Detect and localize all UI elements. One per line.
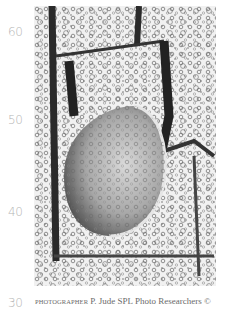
photo-credit: PHOTOGRAPHER P. Jude SPL Photo Researche…	[35, 296, 211, 306]
credit-text: P. Jude SPL Photo Researchers ©	[90, 296, 211, 306]
credit-prefix: PHOTOGRAPHER	[35, 298, 88, 305]
ruler-label-60: 60	[8, 25, 22, 39]
ruler-label-50: 50	[8, 113, 22, 127]
ruler-label-30: 30	[8, 296, 22, 310]
lemon-bubbles-photo	[34, 6, 216, 286]
photo-image-icon	[34, 6, 216, 286]
ruler-label-40: 40	[8, 205, 22, 219]
